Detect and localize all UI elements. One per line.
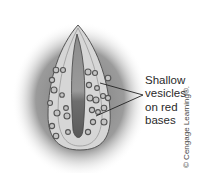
annotation-line: vesicles [145,87,186,100]
annotation-line: on red [145,101,186,114]
annotation-line: bases [145,114,186,127]
annotation-label: Shallow vesicles on red bases [145,74,186,127]
annotation-line: Shallow [145,74,186,87]
illustration: Shallow vesicles on red bases © Cengage … [0,0,203,173]
copyright-credit: © Cengage Learning®. [182,86,191,168]
